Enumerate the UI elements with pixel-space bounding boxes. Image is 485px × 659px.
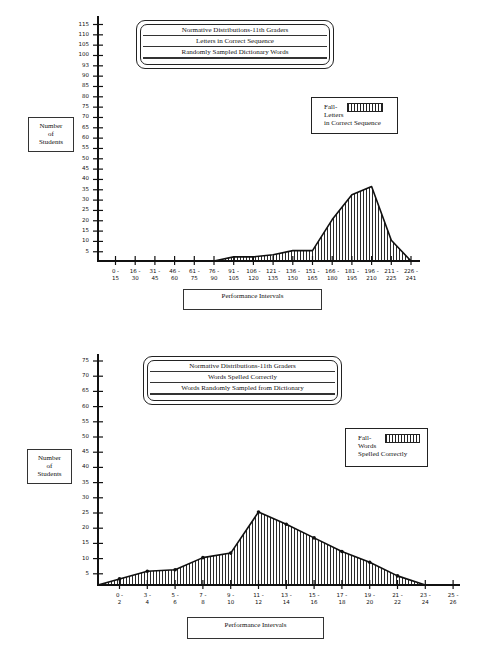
- ylabel-line-2: of: [28, 462, 71, 470]
- y-tick-label: 25: [69, 509, 89, 515]
- legend-line-1: Fall-: [358, 434, 371, 442]
- data-point-marker: [396, 574, 400, 578]
- data-point-marker: [312, 536, 316, 540]
- y-tick-label: 45: [69, 448, 89, 454]
- chart-bottom-ylabel: Number of Students: [27, 449, 72, 484]
- y-tick-label: 30: [69, 494, 89, 500]
- x-tick-label: 3 -4: [136, 592, 158, 606]
- x-tick-label: 11 -12: [248, 592, 270, 606]
- y-tick-label: 20: [69, 524, 89, 530]
- data-point-marker: [173, 568, 177, 572]
- data-point-marker: [285, 522, 289, 526]
- x-tick-label: 5 -6: [164, 592, 186, 606]
- legend-hatch-swatch: [385, 434, 420, 443]
- x-tick-label: 13 -14: [275, 592, 297, 606]
- legend-line-2: Words: [358, 442, 376, 450]
- y-tick-label: 65: [69, 387, 89, 393]
- y-tick-label: 75: [69, 357, 89, 363]
- area-fill: [98, 512, 425, 585]
- ylabel-line-3: Students: [28, 470, 71, 478]
- y-tick-label: 55: [69, 418, 89, 424]
- y-tick-label: 35: [69, 479, 89, 485]
- y-tick-label: 5: [69, 570, 89, 576]
- chart-words-spelled-correctly: Normative Distributions-11th Graders Wor…: [0, 0, 485, 659]
- chart-bottom-title-rule: [150, 394, 335, 395]
- data-point-marker: [201, 556, 205, 560]
- data-point-marker: [146, 570, 150, 574]
- y-tick-label: 10: [69, 555, 89, 561]
- x-tick-label: 9 -10: [220, 592, 242, 606]
- y-tick-label: 70: [69, 372, 89, 378]
- chart-bottom-xlabel: Performance Intervals: [187, 617, 324, 639]
- chart-bottom-subtitle-2: Words Randomly Sampled from Dictionary: [150, 383, 335, 394]
- y-tick-label: 50: [69, 433, 89, 439]
- x-tick-label: 0 -2: [109, 592, 131, 606]
- xlabel-text: Performance Intervals: [188, 621, 323, 629]
- y-tick-label: 40: [69, 463, 89, 469]
- y-tick-label: 15: [69, 539, 89, 545]
- x-tick-label: 19 -20: [359, 592, 381, 606]
- chart-bottom-legend: Fall- Words Spelled Correctly: [345, 428, 428, 467]
- chart-bottom-title: Normative Distributions-11th Graders: [150, 361, 335, 372]
- data-point-marker: [368, 560, 372, 564]
- x-tick-label: 15 -16: [303, 592, 325, 606]
- x-tick-label: 25 -26: [442, 592, 464, 606]
- chart-bottom-subtitle-1: Words Spelled Correctly: [150, 372, 335, 383]
- x-tick-label: 7 -8: [192, 592, 214, 606]
- legend-line-3: Spelled Correctly: [358, 450, 407, 458]
- data-point-marker: [229, 551, 233, 555]
- ylabel-line-1: Number: [28, 454, 71, 462]
- data-point-marker: [340, 550, 344, 554]
- chart-bottom-title-box: Normative Distributions-11th Graders Wor…: [143, 356, 342, 405]
- y-tick-label: 60: [69, 403, 89, 409]
- data-point-marker: [257, 510, 261, 514]
- x-tick-label: 17 -18: [331, 592, 353, 606]
- x-tick-label: 21 -22: [387, 592, 409, 606]
- x-tick-label: 23 -24: [414, 592, 436, 606]
